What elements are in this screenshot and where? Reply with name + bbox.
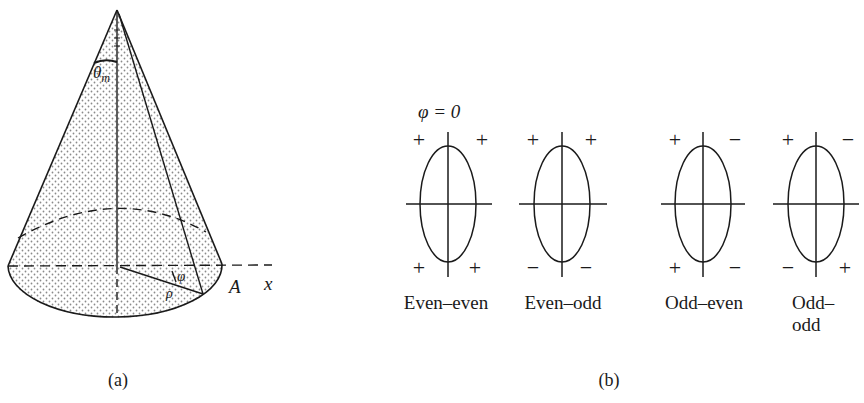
rho-label: ρ [166, 287, 173, 301]
sign-eo-tl: + [527, 129, 539, 151]
sign-ee-br: + [469, 257, 481, 279]
cone-body [8, 10, 222, 318]
sign-oe-tr: − [729, 129, 741, 151]
sign-oo-bl: − [782, 257, 794, 279]
sign-ee-tr: + [476, 129, 488, 151]
sign-oe-bl: + [669, 257, 681, 279]
sign-oe-br: − [729, 257, 741, 279]
point-a-label: A [229, 277, 241, 296]
sign-ee-bl: + [413, 257, 425, 279]
caption-even-odd: Even–odd [524, 292, 601, 314]
sign-oo-tr: − [842, 129, 854, 151]
sign-oe-tl: + [669, 129, 681, 151]
sign-eo-br: − [580, 257, 592, 279]
sign-oo-br: + [839, 257, 851, 279]
panel-b-caption: (b) [599, 370, 620, 391]
theta-subscript: m [101, 71, 110, 85]
caption-odd-odd: Odd–odd [792, 292, 840, 336]
sign-oo-tl: + [782, 129, 794, 151]
panel-a-caption: (a) [108, 370, 128, 391]
cone-diagram [8, 10, 272, 318]
phi-label-cone: φ [177, 269, 185, 284]
caption-even-even: Even–even [404, 292, 488, 314]
caption-odd-even: Odd–even [665, 292, 743, 314]
sign-ee-tl: + [413, 129, 425, 151]
x-axis-label: x [264, 274, 272, 293]
figure-canvas [0, 0, 864, 403]
phi-zero-label: φ = 0 [418, 102, 460, 121]
theta-m-label: θm [93, 64, 110, 84]
sign-eo-tr: + [585, 129, 597, 151]
sign-eo-bl: − [527, 257, 539, 279]
